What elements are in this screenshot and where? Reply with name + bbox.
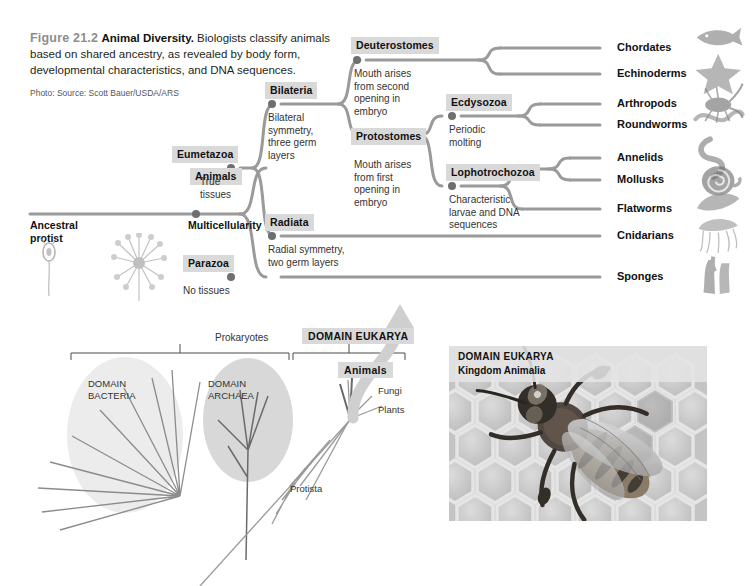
node-trait-deuterostomes: Mouth arises from second opening in embr…	[354, 68, 411, 118]
taxon-label-mollusks: Mollusks	[617, 173, 664, 185]
node-trait-bilateria: Bilateral symmetry, three germ layers	[268, 112, 316, 162]
node-dot-radiata	[268, 232, 276, 240]
node-dot-parazoa	[227, 273, 235, 281]
taxon-label-sponges: Sponges	[617, 270, 663, 282]
photo-panel-caption: DOMAIN EUKARYA Kingdom Animalia	[449, 346, 707, 382]
domain-archaea-label: DOMAIN ARCHAEA	[208, 378, 254, 402]
node-dot-lophotrochozoa	[448, 182, 456, 190]
node-trait-ecdysozoa: Periodic molting	[449, 124, 485, 149]
protist-icon	[36, 238, 62, 298]
taxon-label-annelids: Annelids	[617, 151, 663, 163]
node-trait-eumetazoa: True tissues	[200, 176, 231, 201]
node-label-bilateria: Bilateria	[265, 82, 317, 99]
taxon-label-cnidarians: Cnidarians	[617, 229, 674, 241]
branch-ecdysozoa-to-roundworms	[518, 116, 540, 125]
node-trait-protostomes: Mouth arises from first opening in embry…	[354, 159, 411, 209]
plants-label: Plants	[378, 404, 404, 416]
node-label-protostomes: Protostomes	[351, 128, 426, 145]
honeybee-photo-panel: DOMAIN EUKARYA Kingdom Animalia	[449, 346, 707, 521]
node-dot-bilateria	[268, 100, 276, 108]
taxon-label-echinoderms: Echinoderms	[617, 67, 687, 79]
protista-label: Protista	[290, 483, 322, 495]
node-label-parazoa: Parazoa	[183, 255, 234, 272]
node-trait-parazoa: No tissues	[183, 285, 230, 298]
node-label-eumetazoa: Eumetazoa	[172, 146, 238, 163]
node-dot-animals	[192, 210, 200, 218]
branch-to-mollusks	[548, 169, 570, 180]
node-label-radiata: Radiata	[265, 214, 314, 231]
choanoflagellate-colony-icon	[108, 233, 170, 301]
prokaryotes-bracket-label: Prokaryotes	[215, 332, 268, 345]
node-label-deuterostomes: Deuterostomes	[351, 37, 439, 54]
sponge-icon	[690, 255, 748, 299]
animals-node-label: Animals	[338, 362, 393, 378]
node-label-lophotrochozoa: Lophotrochozoa	[446, 164, 540, 181]
node-dot-deuterostomes	[353, 56, 361, 64]
domain-eukarya-label: DOMAIN EUKARYA	[302, 328, 414, 344]
node-dot-ecdysozoa	[448, 112, 456, 120]
node-label-ecdysozoa: Ecdysozoa	[446, 94, 512, 111]
photo-caption-domain: DOMAIN EUKARYA	[458, 351, 707, 362]
jellyfish-icon	[690, 214, 748, 258]
branch-deuterostomes-to-echinoderms	[478, 60, 500, 74]
arrow-head	[386, 304, 414, 328]
taxon-label-flatworms: Flatworms	[617, 202, 672, 214]
taxon-label-roundworms: Roundworms	[617, 118, 687, 130]
photo-caption-kingdom: Kingdom Animalia	[458, 365, 707, 376]
taxon-label-arthropods: Arthropods	[617, 97, 677, 109]
node-trait-lophotrochozoa: Characteristic larvae and DNA sequences	[449, 194, 520, 232]
domain-bacteria-label: DOMAIN BACTERIA	[88, 378, 136, 402]
fungi-label: Fungi	[378, 385, 402, 397]
node-trait-animals: Multicellularity	[188, 219, 262, 232]
node-trait-radiata: Radial symmetry, two germ layers	[268, 244, 345, 269]
taxon-label-chordates: Chordates	[617, 41, 671, 53]
